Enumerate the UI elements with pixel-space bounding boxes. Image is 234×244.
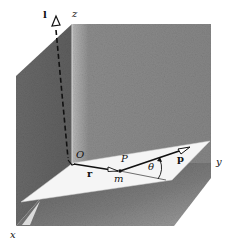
label-z: z [71,8,78,19]
l-arrowhead-icon [52,16,60,26]
label-x: x [10,229,16,240]
label-l: l [43,9,47,20]
label-origin: O [76,149,84,160]
label-theta: θ [148,161,154,172]
label-r: r [87,168,93,179]
label-point-p: P [120,153,128,164]
label-y: y [215,156,222,167]
right-wall [72,24,211,163]
label-p: p [177,153,184,164]
label-mass: m [114,173,123,184]
physics-diagram: l z y x O P m r p θ [0,0,234,244]
